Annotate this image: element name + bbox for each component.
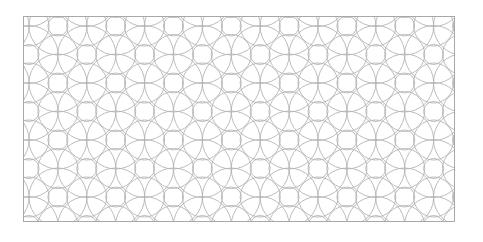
pattern-frame [23, 16, 455, 222]
circle-lattice-pattern [24, 17, 455, 222]
